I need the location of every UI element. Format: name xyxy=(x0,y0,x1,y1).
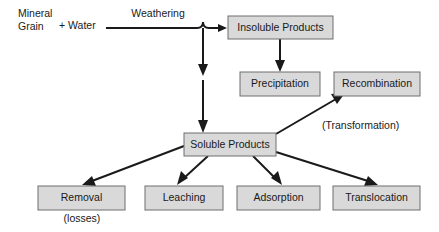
weathering-edge-label: Weathering xyxy=(131,7,185,19)
edge-weathering-to-soluble xyxy=(198,28,208,133)
node-adsorption[interactable]: Adsorption xyxy=(237,186,320,210)
mineral-grain-label-line2: Grain xyxy=(18,20,44,32)
arrow-head-translocation xyxy=(364,176,378,186)
node-recombination[interactable]: Recombination xyxy=(334,72,420,96)
arrow-head-soluble xyxy=(198,120,208,133)
losses-label: (losses) xyxy=(64,212,101,224)
arrow-head-leaching xyxy=(177,171,188,185)
node-precipitation[interactable]: Precipitation xyxy=(240,72,320,96)
arrow-head-mid-vertical xyxy=(198,64,208,76)
node-soluble-products-label: Soluble Products xyxy=(190,138,269,150)
transformation-edge-label: (Transformation) xyxy=(322,119,399,131)
arrow-head-insoluble xyxy=(218,24,227,32)
edge-soluble-to-translocation xyxy=(276,152,378,186)
weathering-flow-diagram: Mineral Grain + Water Weathering (Transf… xyxy=(0,0,439,232)
arrow-head-precipitation xyxy=(275,60,285,72)
node-translocation-label: Translocation xyxy=(345,191,408,203)
node-leaching-label: Leaching xyxy=(163,191,206,203)
flowchart-canvas: Mineral Grain + Water Weathering (Transf… xyxy=(0,0,439,232)
plus-water-label: + Water xyxy=(59,19,96,31)
edge-soluble-to-leaching xyxy=(177,156,208,185)
node-recombination-label: Recombination xyxy=(342,77,412,89)
node-adsorption-label: Adsorption xyxy=(253,191,303,203)
edge-weathering-to-insoluble xyxy=(106,22,227,32)
node-removal-label: Removal xyxy=(61,191,102,203)
node-leaching[interactable]: Leaching xyxy=(145,186,223,210)
node-translocation[interactable]: Translocation xyxy=(333,186,420,210)
edge-soluble-to-removal xyxy=(82,146,184,186)
edge-soluble-to-adsorption xyxy=(253,156,282,185)
mineral-grain-label-line1: Mineral xyxy=(18,7,52,19)
arrow-head-removal xyxy=(82,176,96,186)
edge-insoluble-to-precipitation xyxy=(275,39,285,72)
arrow-head-adsorption xyxy=(271,171,282,185)
node-insoluble-products[interactable]: Insoluble Products xyxy=(228,16,333,39)
node-insoluble-products-label: Insoluble Products xyxy=(237,21,323,33)
node-precipitation-label: Precipitation xyxy=(251,77,309,89)
node-removal[interactable]: Removal xyxy=(38,186,125,210)
node-soluble-products[interactable]: Soluble Products xyxy=(184,133,276,156)
